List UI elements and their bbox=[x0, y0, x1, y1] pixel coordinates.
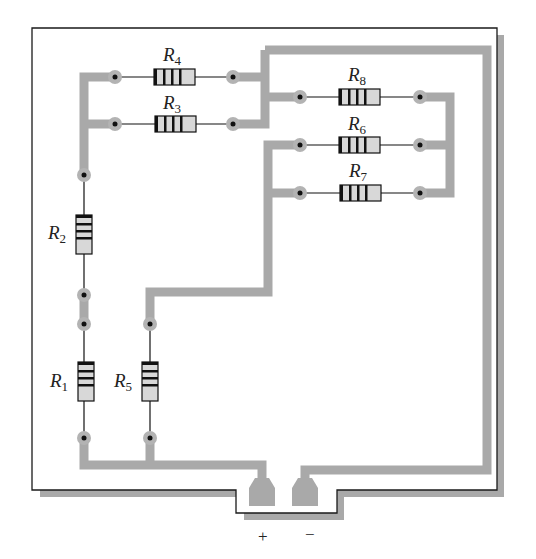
label-r5: R5 bbox=[114, 371, 132, 393]
label-r3: R3 bbox=[163, 93, 181, 115]
pcb-diagram bbox=[0, 0, 536, 559]
resistor-r5 bbox=[142, 362, 158, 401]
resistor-r8 bbox=[339, 89, 380, 105]
positive-terminal-label: + bbox=[258, 528, 268, 545]
resistor-r7 bbox=[340, 185, 381, 201]
negative-terminal-pad bbox=[292, 478, 318, 506]
negative-terminal-label: − bbox=[305, 526, 315, 543]
resistor-r3 bbox=[155, 116, 196, 132]
resistor-r4 bbox=[154, 69, 195, 85]
resistor-r2 bbox=[76, 215, 92, 254]
label-r1: R1 bbox=[50, 371, 68, 393]
label-r2: R2 bbox=[48, 223, 66, 245]
label-r4: R4 bbox=[163, 45, 181, 67]
resistor-r1 bbox=[78, 362, 94, 401]
positive-terminal-pad bbox=[249, 478, 275, 506]
label-r7: R7 bbox=[349, 161, 367, 183]
label-r6: R6 bbox=[348, 114, 366, 136]
label-r8: R8 bbox=[348, 65, 366, 87]
resistor-r6 bbox=[339, 137, 380, 153]
